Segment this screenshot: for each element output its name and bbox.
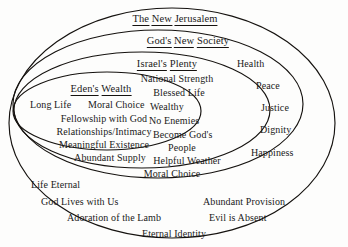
item-moral-choice-outer: Moral Choice [144, 169, 200, 179]
item-abundant-supply: Abundant Supply [74, 153, 146, 163]
heading-word: Eden's [71, 83, 99, 96]
item-adoration-of-the-lamb: Adoration of the Lamb [67, 213, 161, 223]
item-dignity: Dignity [260, 125, 291, 135]
item-peace: Peace [256, 81, 280, 91]
heading-word: Jerusalem [175, 13, 218, 26]
item-meaningful-existence: Meaningful Existence [59, 140, 149, 150]
item-national-strength: National Strength [141, 74, 214, 84]
heading-word: Society [197, 35, 229, 48]
item-relationships-intimacy: Relationships/Intimacy [57, 127, 152, 137]
item-become-gods: Become God's [153, 130, 212, 140]
diagram-canvas: The New Jerusalem Life Eternal God Lives… [0, 0, 348, 247]
heading-new-jerusalem: The New Jerusalem [132, 14, 217, 25]
item-people: People [168, 143, 196, 153]
item-evil-is-absent: Evil is Absent [209, 213, 267, 223]
heading-gods-new-society: God's New Society [147, 36, 229, 47]
heading-word: God's [147, 35, 172, 48]
heading-edens-wealth: Eden's Wealth [71, 84, 132, 95]
heading-israels-plenty: Israel's Plenty [137, 59, 197, 70]
heading-word: Plenty [170, 58, 197, 71]
item-helpful-weather: Helpful Weather [153, 156, 220, 166]
item-wealthy: Wealthy [150, 102, 184, 112]
item-abundant-provision: Abundant Provision [203, 197, 285, 207]
item-long-life: Long Life [30, 100, 71, 110]
item-fellowship-with-god: Fellowship with God [61, 114, 147, 124]
item-blessed-life: Blessed Life [153, 88, 204, 98]
item-justice: Justice [261, 103, 289, 113]
heading-word: Wealth [101, 83, 131, 96]
heading-word: Israel's [137, 58, 167, 71]
heading-word: The [132, 13, 149, 26]
heading-word: New [174, 35, 194, 48]
item-moral-choice-inner: Moral Choice [88, 100, 144, 110]
item-no-enemies: No Enemies [149, 116, 199, 126]
item-life-eternal: Life Eternal [31, 180, 80, 190]
item-health: Health [237, 59, 264, 69]
heading-word: New [152, 13, 172, 26]
item-happiness: Happiness [251, 148, 294, 158]
item-eternal-identity: Eternal Identity [142, 229, 206, 239]
item-god-lives-with-us: God Lives with Us [41, 197, 119, 207]
